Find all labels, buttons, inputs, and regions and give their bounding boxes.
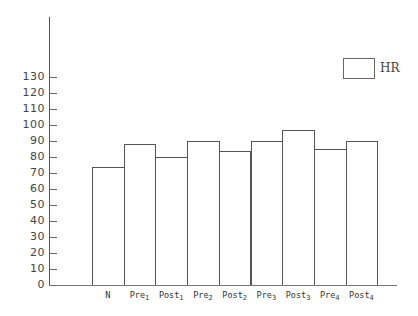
y-tick [50,285,57,286]
bar-pre2 [187,141,220,285]
bar-pre1 [124,144,157,285]
y-tick [50,205,57,206]
y-tick [50,253,57,254]
x-tick-label: Post1 [155,290,187,302]
bar-post3 [282,130,315,285]
y-tick [50,221,57,222]
y-tick-label: 130 [5,71,45,83]
x-tick-label: N [92,290,124,300]
y-tick-label: 20 [5,247,45,259]
y-tick [50,173,57,174]
y-tick [50,269,57,270]
y-tick-label: 60 [5,183,45,195]
y-tick-label: 100 [5,119,45,131]
y-tick [50,109,57,110]
y-tick-label: 30 [5,231,45,243]
x-tick-label: Pre3 [251,290,283,302]
y-tick-label: 10 [5,263,45,275]
x-tick-label: Post2 [219,290,251,302]
y-tick [50,189,57,190]
x-axis [49,285,397,286]
y-tick-label: 80 [5,151,45,163]
y-tick-label: 70 [5,167,45,179]
y-tick [50,237,57,238]
bar-chart: 0102030405060708090100110120130 NPre1Pos… [0,0,418,316]
legend-label: HR [380,61,400,75]
y-tick [50,93,57,94]
bar-n [92,167,125,285]
y-tick-label: 90 [5,135,45,147]
bar-post1 [155,157,188,285]
y-tick-label: 120 [5,87,45,99]
y-tick [50,141,57,142]
y-axis [49,17,50,285]
bar-pre3 [251,141,284,285]
y-tick-label: 0 [5,279,45,291]
bar-post2 [219,151,252,285]
x-tick-label: Post4 [346,290,378,302]
x-tick-label: Pre1 [124,290,156,302]
legend-swatch [343,58,375,79]
y-tick-label: 50 [5,199,45,211]
x-tick-label: Post3 [282,290,314,302]
x-tick-label: Pre2 [187,290,219,302]
y-tick [50,157,57,158]
x-tick-label: Pre4 [314,290,346,302]
y-tick [50,125,57,126]
y-tick-label: 110 [5,103,45,115]
bar-post4 [346,141,379,285]
y-tick [50,77,57,78]
bar-pre4 [314,149,347,285]
y-tick-label: 40 [5,215,45,227]
